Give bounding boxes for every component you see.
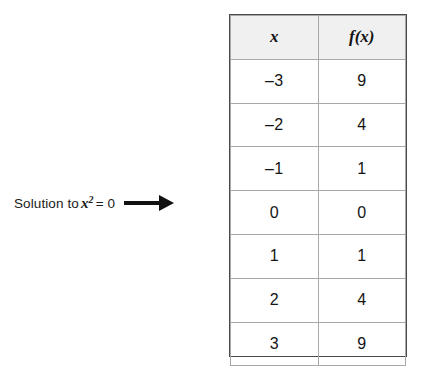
function-value-table: x f(x) –3 9 –2 4 –1 1 0 xyxy=(229,14,407,357)
cell-fx: 4 xyxy=(318,103,406,147)
annotation-equation-tail: = 0 xyxy=(94,196,115,211)
table-body: –3 9 –2 4 –1 1 0 0 1 1 xyxy=(231,59,406,366)
cell-x: –2 xyxy=(231,103,319,147)
cell-fx: 9 xyxy=(318,322,406,366)
annotation-label: Solution tox2= 0 xyxy=(14,195,115,212)
right-arrow-icon xyxy=(124,195,174,211)
cell-fx: 4 xyxy=(318,278,406,322)
cell-fx: 1 xyxy=(318,234,406,278)
column-header-x: x xyxy=(231,16,319,60)
arrow-shaft xyxy=(124,201,160,205)
cell-x: 3 xyxy=(231,322,319,366)
cell-x: –3 xyxy=(231,59,319,103)
table-header-row: x f(x) xyxy=(231,16,406,60)
table-row-highlighted: 0 0 xyxy=(231,191,406,235)
cell-fx: 1 xyxy=(318,147,406,191)
column-header-fx: f(x) xyxy=(318,16,406,60)
annotation-exponent: 2 xyxy=(89,193,94,204)
cell-x: 0 xyxy=(231,191,319,235)
table-row: 1 1 xyxy=(231,234,406,278)
table-figure: Solution tox2= 0 x f(x) –3 9 –2 4 xyxy=(0,0,426,373)
cell-x: –1 xyxy=(231,147,319,191)
table-row: –3 9 xyxy=(231,59,406,103)
cell-fx: 0 xyxy=(318,191,406,235)
cell-x: 2 xyxy=(231,278,319,322)
cell-fx: 9 xyxy=(318,59,406,103)
arrow-head xyxy=(159,195,174,211)
table-row: –2 4 xyxy=(231,103,406,147)
annotation-variable: x xyxy=(79,195,89,211)
annotation-lead-text: Solution to xyxy=(14,196,79,211)
table-row: –1 1 xyxy=(231,147,406,191)
table-row: 3 9 xyxy=(231,322,406,366)
table-row: 2 4 xyxy=(231,278,406,322)
solution-annotation: Solution tox2= 0 xyxy=(14,191,174,215)
cell-x: 1 xyxy=(231,234,319,278)
table-header: x f(x) xyxy=(231,16,406,60)
